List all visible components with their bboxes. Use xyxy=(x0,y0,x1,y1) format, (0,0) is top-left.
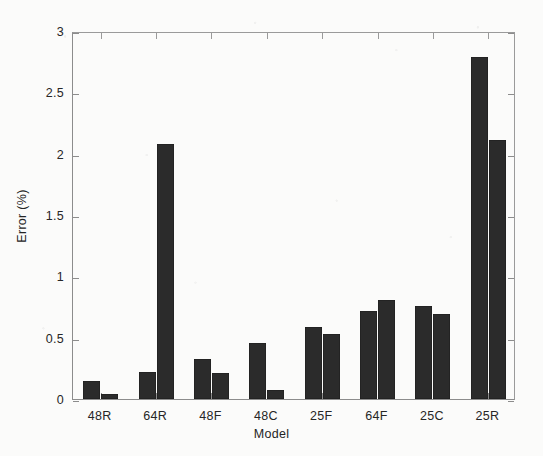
y-tick-label: 1.5 xyxy=(18,209,64,223)
x-tick-mark-top xyxy=(378,33,379,39)
figure-canvas: Error (%) Model 00.511.522.53 48R64R48F4… xyxy=(0,0,543,456)
bar xyxy=(101,394,118,399)
bar xyxy=(139,372,156,399)
bar xyxy=(471,57,488,399)
x-tick-mark-top xyxy=(488,33,489,39)
x-tick-label: 25R xyxy=(457,409,517,423)
bar xyxy=(83,381,100,399)
y-tick-label: 0.5 xyxy=(18,332,64,346)
x-tick-mark-top xyxy=(156,33,157,39)
bar xyxy=(323,334,340,399)
x-tick-label: 48R xyxy=(70,409,130,423)
y-tick-mark xyxy=(73,217,79,218)
y-tick-mark-right xyxy=(508,94,514,95)
x-tick-mark-top xyxy=(267,33,268,39)
x-tick-label: 48C xyxy=(236,409,296,423)
bar xyxy=(433,314,450,399)
x-tick-mark-top xyxy=(433,33,434,39)
bar xyxy=(305,327,322,399)
y-tick-label: 3 xyxy=(18,25,64,39)
y-tick-mark xyxy=(73,401,79,402)
x-tick-label: 64F xyxy=(347,409,407,423)
y-tick-mark-right xyxy=(508,401,514,402)
x-tick-mark-top xyxy=(211,33,212,39)
y-tick-mark-right xyxy=(508,278,514,279)
bar xyxy=(415,306,432,399)
y-tick-mark-right xyxy=(508,33,514,34)
y-tick-mark-right xyxy=(508,156,514,157)
y-tick-label: 2.5 xyxy=(18,86,64,100)
x-tick-label: 25F xyxy=(291,409,351,423)
x-tick-label: 48F xyxy=(180,409,240,423)
y-tick-label: 2 xyxy=(18,148,64,162)
plot-area xyxy=(72,32,515,400)
x-tick-mark-top xyxy=(322,33,323,39)
y-tick-mark xyxy=(73,340,79,341)
bar xyxy=(360,311,377,399)
bar xyxy=(157,144,174,399)
x-tick-mark-top xyxy=(101,33,102,39)
y-tick-label: 0 xyxy=(18,393,64,407)
y-tick-label: 1 xyxy=(18,270,64,284)
x-axis-title: Model xyxy=(0,427,543,441)
y-tick-mark xyxy=(73,33,79,34)
x-tick-label: 64R xyxy=(125,409,185,423)
bar xyxy=(194,359,211,399)
y-tick-mark-right xyxy=(508,340,514,341)
y-tick-mark-right xyxy=(508,217,514,218)
y-tick-mark xyxy=(73,278,79,279)
bar xyxy=(489,140,506,399)
bar xyxy=(212,373,229,399)
bar xyxy=(378,300,395,399)
bar xyxy=(267,390,284,399)
y-tick-mark xyxy=(73,94,79,95)
bar xyxy=(249,343,266,399)
x-tick-label: 25C xyxy=(402,409,462,423)
y-tick-mark xyxy=(73,156,79,157)
